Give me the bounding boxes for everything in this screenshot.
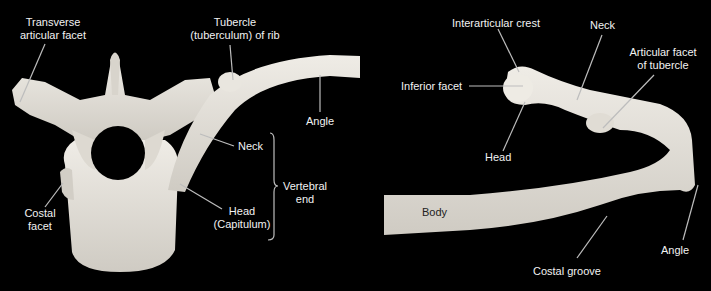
label-angle-right: Angle: [661, 244, 689, 257]
label-vertebral-end: Vertebral end: [280, 180, 330, 206]
label-neck-left: Neck: [238, 140, 263, 153]
label-head-right: Head: [485, 151, 511, 164]
anatomy-illustration: [0, 0, 711, 291]
label-costal-facet: Costal facet: [20, 207, 60, 233]
label-angle-left: Angle: [306, 115, 334, 128]
label-head-capitulum: Head (Capitulum): [212, 205, 272, 231]
label-body: Body: [422, 206, 447, 219]
label-tubercle: Tubercle (tuberculum) of rib: [185, 16, 285, 42]
label-costal-groove: Costal groove: [533, 265, 601, 278]
label-transverse-articular-facet: Transverse articular facet: [18, 16, 88, 42]
label-inferior-facet: Inferior facet: [401, 80, 462, 93]
label-articular-facet-tubercle: Articular facet of tubercle: [623, 46, 703, 72]
label-interarticular-crest: Interarticular crest: [452, 17, 540, 30]
label-neck-right: Neck: [590, 19, 615, 32]
